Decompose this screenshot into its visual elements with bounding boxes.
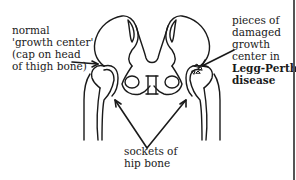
label-line: center in [232, 50, 296, 62]
label-line: sockets of [124, 145, 177, 157]
label-line: hip bone [124, 157, 177, 169]
label-line: pieces of [232, 14, 296, 26]
disease-name: disease [232, 74, 296, 86]
disease-name: Legg-Perthes [232, 62, 296, 74]
label-line: normal [12, 24, 93, 36]
damaged-growth-center-label: pieces of damaged growth center in Legg-… [232, 14, 296, 86]
normal-growth-center-label: normal 'growth center' (cap on head of t… [12, 24, 93, 72]
label-line: 'growth center' [12, 36, 93, 48]
frame-border [293, 0, 295, 180]
label-line: (cap on head [12, 48, 93, 60]
label-line: damaged [232, 26, 296, 38]
hip-sockets-label: sockets of hip bone [124, 145, 177, 169]
label-line: growth [232, 38, 296, 50]
label-line: of thigh bone) [12, 60, 93, 72]
